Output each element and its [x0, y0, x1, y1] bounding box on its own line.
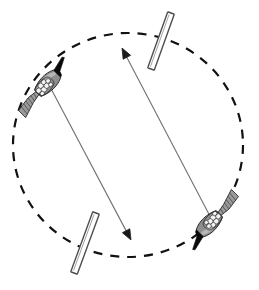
- arrow-head: [122, 229, 131, 240]
- arrow-shaft: [125, 55, 212, 220]
- diagram-canvas: [0, 0, 259, 290]
- bar-top-right: [148, 12, 175, 70]
- bar-bottom-left: [71, 212, 100, 274]
- arrow-from-lower-right: [122, 48, 212, 220]
- organism-lower-right: [182, 189, 243, 250]
- figure-container: [0, 0, 259, 290]
- organism-upper-left: [14, 56, 75, 117]
- arrow-from-upper-left: [48, 83, 131, 240]
- arrow-shaft: [48, 83, 127, 233]
- arrow-head: [122, 48, 131, 59]
